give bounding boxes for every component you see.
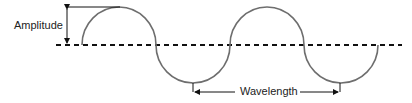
wave-curve: [82, 7, 378, 83]
amplitude-label: Amplitude: [14, 20, 63, 31]
wave-diagram: [0, 0, 412, 103]
wavelength-label: Wavelength: [240, 86, 298, 97]
